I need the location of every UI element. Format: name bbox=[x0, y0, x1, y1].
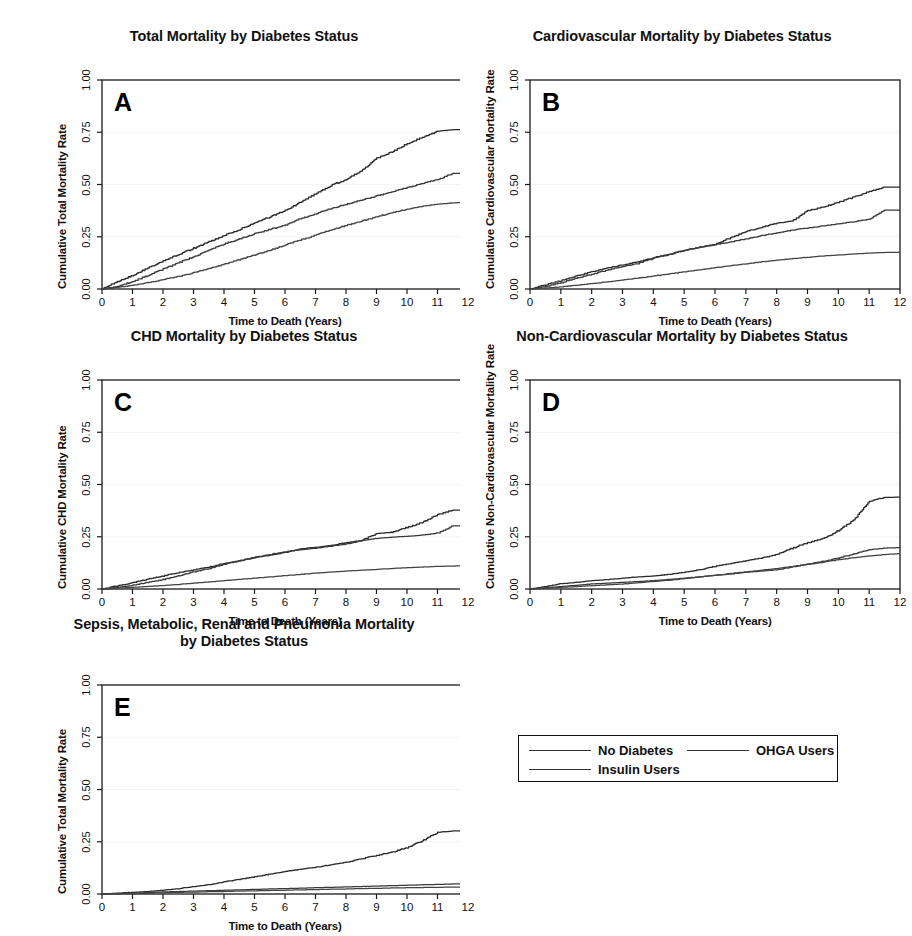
legend-label-no_diabetes: No Diabetes bbox=[598, 743, 673, 758]
x-tick-label: 8 bbox=[332, 596, 360, 608]
x-tick-label: 11 bbox=[424, 596, 452, 608]
panel-e: Sepsis, Metabolic, Renal and Pneumonia M… bbox=[28, 614, 460, 936]
x-tick-label: 6 bbox=[271, 296, 299, 308]
x-tick-label: 11 bbox=[424, 296, 452, 308]
y-tick-label: 1.00 bbox=[78, 63, 94, 97]
x-tick-label: 6 bbox=[701, 296, 729, 308]
x-tick-label: 2 bbox=[149, 596, 177, 608]
y-tick-label: 0.50 bbox=[506, 168, 522, 202]
y-tick-label: 0.50 bbox=[78, 468, 94, 502]
legend-label-insulin: Insulin Users bbox=[598, 762, 680, 777]
x-tick-label: 0 bbox=[88, 901, 116, 913]
x-tick-label: 8 bbox=[763, 296, 791, 308]
x-tick-label: 9 bbox=[363, 596, 391, 608]
y-tick-label: 0.50 bbox=[78, 168, 94, 202]
x-tick-label: 3 bbox=[180, 596, 208, 608]
x-tick-label: 5 bbox=[241, 596, 269, 608]
panel-b: Cardiovascular Mortality by Diabetes Sta… bbox=[462, 26, 902, 345]
x-tick-label: 7 bbox=[732, 296, 760, 308]
x-tick-label: 5 bbox=[670, 596, 698, 608]
x-tick-label: 5 bbox=[670, 296, 698, 308]
x-axis-label: Time to Death (Years) bbox=[102, 920, 468, 932]
x-tick-label: 5 bbox=[241, 296, 269, 308]
x-tick-label: 0 bbox=[88, 596, 116, 608]
legend-entry-ohga: OHGA Users bbox=[687, 743, 834, 758]
panel-letter-b: B bbox=[542, 90, 560, 115]
x-tick-label: 10 bbox=[393, 296, 421, 308]
y-tick-label: 0.75 bbox=[78, 720, 94, 754]
x-tick-label: 8 bbox=[332, 901, 360, 913]
y-tick-label: 0.75 bbox=[506, 415, 522, 449]
x-tick-label: 11 bbox=[424, 901, 452, 913]
x-tick-label: 7 bbox=[302, 596, 330, 608]
x-tick-label: 1 bbox=[547, 296, 575, 308]
x-tick-label: 11 bbox=[855, 296, 883, 308]
y-axis-label: Cumulative Total Mortality Rate bbox=[56, 124, 68, 289]
y-tick-label: 0.50 bbox=[78, 773, 94, 807]
x-tick-label: 7 bbox=[732, 596, 760, 608]
panel-c: CHD Mortality by Diabetes StatusC0.000.2… bbox=[28, 326, 460, 645]
x-tick-label: 9 bbox=[794, 296, 822, 308]
x-tick-label: 1 bbox=[119, 596, 147, 608]
x-tick-label: 6 bbox=[701, 596, 729, 608]
x-tick-label: 4 bbox=[210, 296, 238, 308]
panel-letter-e: E bbox=[114, 695, 131, 720]
panel-d: Non-Cardiovascular Mortality by Diabetes… bbox=[462, 326, 902, 645]
x-tick-label: 8 bbox=[763, 596, 791, 608]
y-tick-label: 0.25 bbox=[78, 825, 94, 859]
x-tick-label: 0 bbox=[516, 596, 544, 608]
y-axis-label: Cumulative Non-Cardiovascular Mortality … bbox=[484, 344, 496, 589]
x-tick-label: 3 bbox=[609, 596, 637, 608]
y-axis-label: Cumulative Cardiovascular Mortality Rate bbox=[484, 69, 496, 289]
x-tick-label: 2 bbox=[149, 901, 177, 913]
x-tick-label: 9 bbox=[363, 901, 391, 913]
legend-swatch-no_diabetes bbox=[529, 750, 591, 751]
y-tick-label: 1.00 bbox=[506, 63, 522, 97]
x-tick-label: 10 bbox=[824, 296, 852, 308]
legend-entry-insulin: Insulin Users bbox=[529, 762, 680, 777]
x-tick-label: 6 bbox=[271, 901, 299, 913]
panel-letter-a: A bbox=[114, 90, 132, 115]
y-tick-label: 0.25 bbox=[78, 520, 94, 554]
y-tick-label: 0.75 bbox=[78, 415, 94, 449]
x-tick-label: 2 bbox=[149, 296, 177, 308]
y-axis-label: Cumulative CHD Mortality Rate bbox=[56, 425, 68, 589]
panel-letter-d: D bbox=[542, 390, 560, 415]
x-tick-label: 0 bbox=[516, 296, 544, 308]
y-tick-label: 0.75 bbox=[506, 115, 522, 149]
legend-box: No DiabetesOHGA UsersInsulin Users bbox=[518, 735, 838, 782]
x-tick-label: 4 bbox=[639, 296, 667, 308]
x-tick-label: 3 bbox=[180, 901, 208, 913]
x-tick-label: 9 bbox=[363, 296, 391, 308]
x-tick-label: 1 bbox=[547, 596, 575, 608]
x-tick-label: 10 bbox=[393, 596, 421, 608]
x-tick-label: 10 bbox=[393, 901, 421, 913]
legend-swatch-ohga bbox=[687, 750, 749, 751]
legend-swatch-insulin bbox=[529, 769, 591, 770]
x-tick-label: 12 bbox=[886, 596, 912, 608]
x-tick-label: 12 bbox=[886, 296, 912, 308]
x-tick-label: 5 bbox=[241, 901, 269, 913]
y-tick-label: 0.75 bbox=[78, 115, 94, 149]
x-tick-label: 4 bbox=[210, 596, 238, 608]
x-tick-label: 3 bbox=[180, 296, 208, 308]
x-tick-label: 2 bbox=[578, 296, 606, 308]
y-tick-label: 1.00 bbox=[78, 363, 94, 397]
x-tick-label: 0 bbox=[88, 296, 116, 308]
x-tick-label: 9 bbox=[794, 596, 822, 608]
y-tick-label: 0.25 bbox=[506, 520, 522, 554]
x-tick-label: 10 bbox=[824, 596, 852, 608]
x-tick-label: 11 bbox=[855, 596, 883, 608]
x-tick-label: 4 bbox=[210, 901, 238, 913]
y-tick-label: 1.00 bbox=[78, 668, 94, 702]
y-axis-label: Cumulative Total Mortality Rate bbox=[56, 729, 68, 894]
x-tick-label: 12 bbox=[454, 901, 482, 913]
panel-letter-c: C bbox=[114, 390, 132, 415]
x-tick-label: 4 bbox=[639, 596, 667, 608]
legend-label-ohga: OHGA Users bbox=[756, 743, 834, 758]
y-tick-label: 0.50 bbox=[506, 468, 522, 502]
y-tick-label: 1.00 bbox=[506, 363, 522, 397]
x-tick-label: 1 bbox=[119, 296, 147, 308]
x-tick-label: 7 bbox=[302, 901, 330, 913]
